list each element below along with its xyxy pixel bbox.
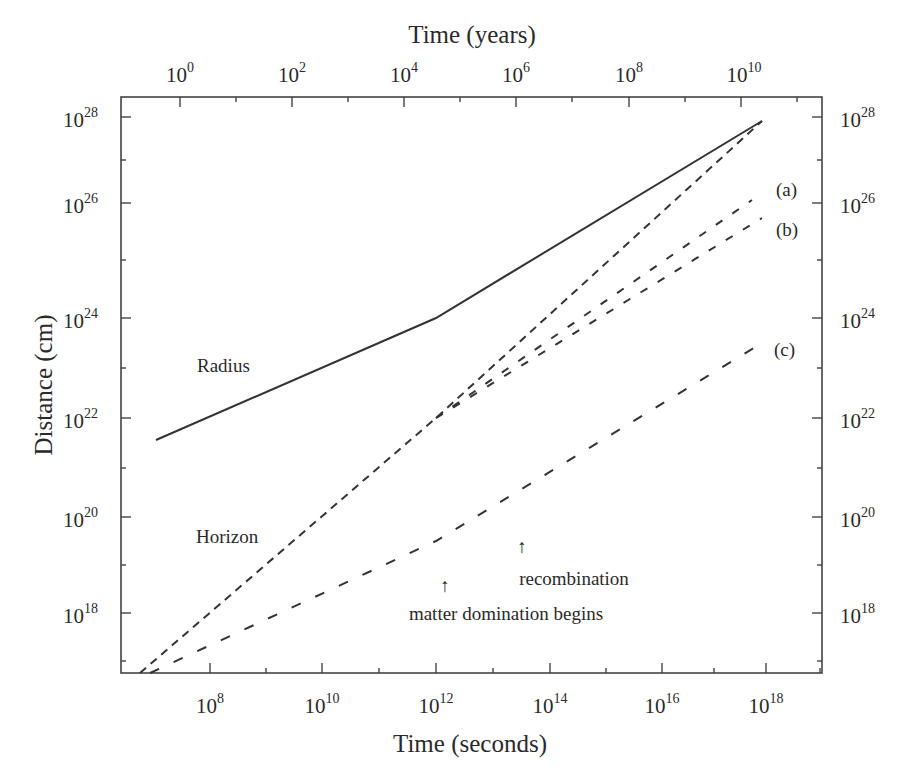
svg-text:1020: 1020 (63, 505, 98, 532)
matter-domination-label: matter domination begins (409, 603, 603, 624)
svg-text:1022: 1022 (840, 406, 875, 433)
recombination-arrow-icon: ↑ (517, 536, 527, 557)
svg-text:1020: 1020 (840, 505, 875, 532)
svg-text:108: 108 (615, 60, 643, 87)
svg-text:1028: 1028 (840, 105, 875, 132)
svg-text:108: 108 (196, 691, 224, 718)
radius-label: Radius (197, 355, 250, 376)
chart-canvas: 108 1010 1012 1014 1016 1018 100 102 104… (0, 0, 912, 770)
svg-text:1010: 1010 (727, 60, 762, 87)
x-axis-ticks (210, 663, 820, 673)
svg-text:1022: 1022 (63, 406, 98, 433)
y-axis-ticks (121, 117, 131, 661)
series-b-label: (b) (776, 219, 798, 241)
series-horizon (140, 121, 762, 673)
recombination-label: recombination (519, 568, 629, 589)
svg-text:1026: 1026 (840, 191, 875, 218)
x-axis-title: Time (seconds) (393, 730, 547, 758)
svg-text:1014: 1014 (533, 691, 568, 718)
series-radius (156, 121, 762, 440)
svg-text:1012: 1012 (419, 691, 454, 718)
y-axis-title: Distance (cm) (30, 315, 58, 456)
series-a (436, 200, 752, 418)
x-tick-labels: 108 1010 1012 1014 1016 1018 (196, 691, 784, 718)
y2-tick-labels: 1028 1026 1024 1022 1020 1018 (840, 105, 875, 628)
x2-tick-labels: 100 102 104 106 108 1010 (166, 60, 762, 87)
horizon-label: Horizon (196, 526, 259, 547)
x2-axis-title: Time (years) (408, 21, 536, 49)
svg-text:104: 104 (390, 60, 418, 87)
svg-text:102: 102 (278, 60, 306, 87)
series-a-label: (a) (776, 179, 797, 201)
series-c-label: (c) (774, 339, 795, 361)
svg-text:1028: 1028 (63, 105, 98, 132)
y-tick-labels: 1028 1026 1024 1022 1020 1018 (63, 105, 98, 628)
svg-text:106: 106 (502, 60, 530, 87)
svg-text:1018: 1018 (63, 601, 98, 628)
svg-text:100: 100 (166, 60, 194, 87)
svg-text:1018: 1018 (749, 691, 784, 718)
x2-axis-ticks (180, 97, 797, 107)
svg-text:1018: 1018 (840, 601, 875, 628)
matter-arrow-icon: ↑ (440, 575, 450, 596)
svg-text:1016: 1016 (645, 691, 680, 718)
svg-text:1024: 1024 (840, 306, 875, 333)
svg-text:1026: 1026 (63, 191, 98, 218)
series-b (436, 218, 762, 418)
y2-axis-ticks (812, 117, 822, 661)
svg-text:1024: 1024 (63, 306, 98, 333)
svg-text:1010: 1010 (305, 691, 340, 718)
